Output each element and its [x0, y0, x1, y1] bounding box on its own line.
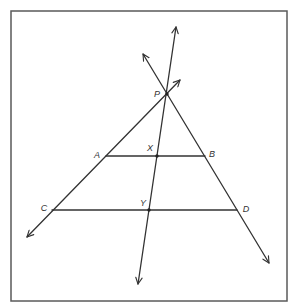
label-Y: Y [140, 198, 147, 208]
point-X [155, 154, 158, 157]
label-C: C [41, 203, 48, 213]
label-B: B [209, 149, 215, 159]
label-P: P [154, 89, 160, 99]
label-A: A [93, 150, 100, 160]
label-X: X [146, 143, 154, 153]
geometry-diagram: P A X B C Y D [0, 0, 291, 307]
label-D: D [243, 204, 250, 214]
point-P [165, 92, 168, 95]
point-Y [147, 208, 150, 211]
